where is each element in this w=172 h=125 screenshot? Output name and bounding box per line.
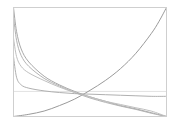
line-chart — [0, 0, 172, 125]
plot-frame — [14, 8, 167, 117]
series-decreasing-2 — [14, 16, 167, 116]
series-increasing — [14, 8, 167, 117]
series-decreasing-1 — [14, 8, 167, 117]
series-decreasing-3 — [14, 38, 167, 116]
series-layer — [14, 8, 167, 117]
